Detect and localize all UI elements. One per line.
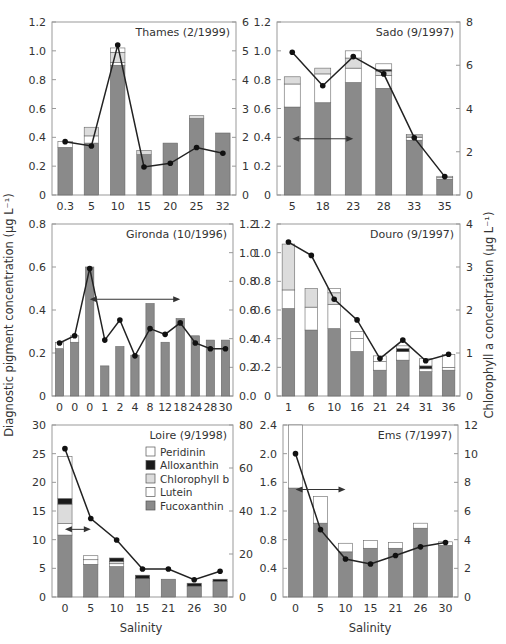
- chlorophyll-a-point: [354, 317, 360, 323]
- y-tick-label: 0: [39, 591, 46, 604]
- bar-segment-lutein: [397, 352, 410, 361]
- y-tick-label: 0.4: [254, 131, 272, 144]
- right-y-axis-label: Chlorophyll a concentration (μg L⁻¹): [482, 212, 496, 419]
- chlorophyll-a-point: [350, 54, 356, 60]
- x-tick-label: 36: [442, 401, 456, 414]
- chlorophyll-a-point: [140, 566, 146, 572]
- chart-panel-0: 00.20.40.60.81.01.201234560.351015202532…: [29, 16, 250, 213]
- bar-segment-lutein: [374, 362, 387, 371]
- bar-segment-fucoxanthin: [305, 330, 318, 396]
- plot-frame: [277, 224, 460, 396]
- chlorophyll-a-point: [393, 553, 399, 559]
- y2-tick-label: 0.0: [239, 390, 257, 403]
- y-tick-label: 0: [39, 189, 46, 202]
- legend-label: Peridinin: [160, 446, 205, 458]
- bar-segment-fucoxanthin: [374, 370, 387, 396]
- plot-frame: [277, 22, 460, 195]
- panel-title: Gironda (10/1996): [126, 228, 227, 241]
- left-y-axis-label: Diagnostic pigment concentration (μg L⁻¹…: [2, 193, 16, 437]
- y-tick-label: 0.4: [260, 562, 278, 575]
- legend-label: Fucoxanthin: [160, 500, 224, 512]
- y-tick-label: 0.8: [260, 534, 278, 547]
- bar-segment-fucoxanthin: [176, 319, 184, 396]
- x-tick-label: 18: [316, 200, 330, 213]
- legend-swatch: [146, 447, 155, 456]
- x-tick-label: 20: [163, 200, 177, 213]
- x-tick-label: 0: [56, 401, 63, 414]
- bar-segment-peridinin: [389, 543, 403, 549]
- y-tick-label: 25: [32, 448, 46, 461]
- x-tick-label: 21: [161, 602, 175, 615]
- y2-tick-label: 0: [239, 591, 246, 604]
- legend-label: Alloxanthin: [160, 459, 219, 471]
- bar-segment-fucoxanthin: [163, 143, 177, 195]
- chlorophyll-a-point: [377, 356, 383, 362]
- bar-segment-fucoxanthin: [187, 586, 201, 597]
- x-tick-label: 5: [317, 602, 324, 615]
- panel-title: Thames (2/1999): [135, 26, 230, 39]
- y-tick-label: 1.0: [254, 45, 272, 58]
- chlorophyll-a-point: [177, 320, 183, 326]
- chlorophyll-a-point: [166, 566, 172, 572]
- bar-segment-fucoxanthin: [86, 267, 94, 396]
- bar-segment-fucoxanthin: [101, 366, 109, 396]
- bar-segment-fucoxanthin: [289, 488, 303, 597]
- chlorophyll-a-point: [443, 540, 449, 546]
- x-tick-label: 30: [439, 602, 453, 615]
- y2-tick-label: 3: [242, 103, 249, 116]
- chlorophyll-a-point: [117, 317, 123, 323]
- y-tick-label: 0.6: [254, 304, 272, 317]
- y-tick-label: 0: [264, 189, 271, 202]
- bar-segment-fucoxanthin: [110, 65, 124, 195]
- chlorophyll-a-point: [442, 174, 448, 180]
- chlorophyll-a-point: [89, 143, 95, 149]
- bar-segment-lutein: [110, 564, 124, 567]
- y-tick-label: 2.0: [260, 448, 278, 461]
- x-tick-label: 21: [373, 401, 387, 414]
- y2-tick-label: 6: [242, 16, 249, 29]
- bar-segment-fucoxanthin: [397, 360, 410, 396]
- y-tick-label: 1.2: [29, 16, 47, 29]
- bar-segment-alloxanthin: [187, 583, 201, 586]
- x-tick-label: 26: [414, 602, 428, 615]
- estuary-pigment-figure: 00.20.40.60.81.01.201234560.351015202532…: [0, 0, 506, 644]
- bar-segment-fucoxanthin: [146, 304, 154, 396]
- x-tick-label: 0: [292, 602, 299, 615]
- bar-segment-lutein: [84, 560, 98, 565]
- bar-segment-alloxanthin: [419, 366, 432, 369]
- x-tick-label: 30: [218, 401, 232, 414]
- x-tick-label: 12: [158, 401, 172, 414]
- y-tick-label: 0: [270, 591, 277, 604]
- y-tick-label: 0.6: [29, 103, 47, 116]
- arrowhead-right-icon: [84, 526, 91, 532]
- chlorophyll-a-point: [381, 71, 387, 77]
- bar-segment-peridinin: [351, 332, 364, 339]
- y2-tick-label: 0: [464, 591, 471, 604]
- bar-segment-fucoxanthin: [70, 342, 78, 396]
- y-tick-label: 1.2: [254, 16, 272, 29]
- x-tick-label: 8: [147, 401, 154, 414]
- chlorophyll-a-point: [286, 239, 292, 245]
- y2-tick-label: 20: [239, 548, 253, 561]
- x-tick-label: 10: [110, 602, 124, 615]
- y2-tick-label: 1: [466, 347, 473, 360]
- legend-swatch: [146, 474, 155, 483]
- bar-segment-chlorophyll-b: [110, 561, 124, 563]
- chlorophyll-a-point: [331, 296, 337, 302]
- chlorophyll-a-point: [87, 266, 93, 272]
- y2-tick-label: 4: [242, 74, 249, 87]
- chlorophyll-a-point: [88, 516, 94, 522]
- chart-panel-3: 00.20.40.60.81.01.20123416101621243136Do…: [254, 218, 474, 414]
- bar-segment-chlorophyll-b: [137, 150, 151, 154]
- x-tick-label: 35: [438, 200, 452, 213]
- bar-segment-chlorophyll-b: [58, 504, 72, 523]
- x-tick-label: 10: [111, 200, 125, 213]
- bar-segment-peridinin: [314, 497, 328, 524]
- y-tick-label: 30: [32, 419, 46, 432]
- y-tick-label: 15: [32, 505, 46, 518]
- y-tick-label: 1.0: [254, 247, 272, 260]
- chlorophyll-a-point: [62, 139, 68, 145]
- bar-segment-fucoxanthin: [328, 329, 341, 396]
- y2-tick-label: 2: [242, 131, 249, 144]
- bar-segment-fucoxanthin: [55, 349, 63, 396]
